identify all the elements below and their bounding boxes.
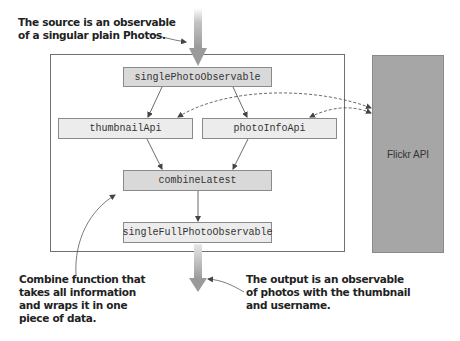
- flow-arrow-icon: [147, 139, 162, 169]
- combine-pointer-icon: [76, 195, 115, 275]
- input-stream-arrow-icon: [189, 8, 207, 66]
- source-annotation: The source is an observable of a singula…: [18, 16, 176, 42]
- flow-arrow-icon: [233, 87, 247, 117]
- api-call-dashed-arrow-icon: [178, 93, 371, 117]
- combine-annotation: Combine function that takes all informat…: [19, 273, 145, 325]
- output-annotation: The output is an observable of photos wi…: [246, 273, 410, 312]
- output-pointer-icon: [208, 279, 244, 292]
- api-call-dashed-arrow-icon: [310, 108, 371, 117]
- output-stream-arrow-icon: [189, 244, 207, 292]
- flow-arrow-icon: [233, 139, 248, 169]
- flow-arrow-icon: [148, 87, 162, 117]
